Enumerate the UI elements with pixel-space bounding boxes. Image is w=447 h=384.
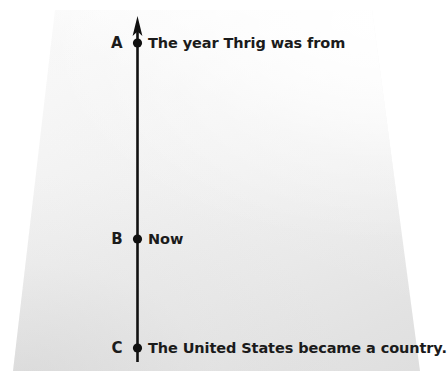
point-label-b: Now	[148, 232, 183, 247]
point-letter-b: B	[106, 232, 128, 247]
point-letter-a: A	[106, 36, 128, 51]
point-letter-c: C	[106, 341, 128, 356]
point-label-a: The year Thrig was from	[148, 36, 345, 51]
point-label-c: The United States became a country.	[148, 341, 447, 356]
